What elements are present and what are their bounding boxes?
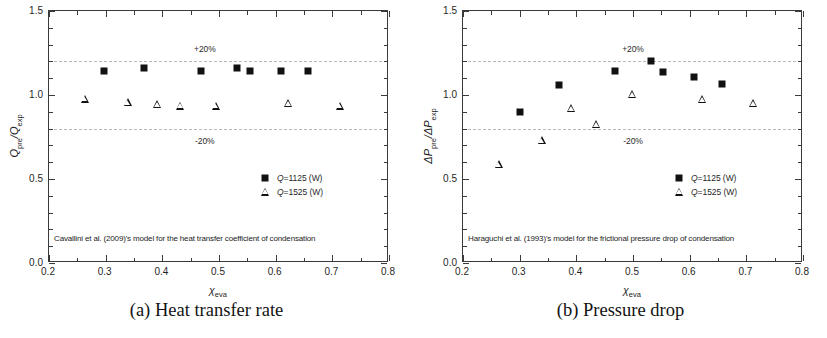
data-point-triangle <box>212 102 220 110</box>
y-tick <box>384 78 388 79</box>
x-axis-subscript: eva <box>629 290 641 299</box>
y-tick <box>384 45 388 46</box>
y-tick <box>463 263 469 264</box>
y-tick-label: 1.5 <box>430 5 457 16</box>
data-point-square <box>277 68 284 75</box>
y-axis-denominator-subscript: exp <box>15 114 24 126</box>
x-tick <box>134 11 135 15</box>
y-tick <box>795 179 801 180</box>
y-tick-label: 0.0 <box>16 257 43 268</box>
x-tick <box>389 11 390 17</box>
x-tick <box>746 255 747 261</box>
y-tick-label: 1.0 <box>16 89 43 100</box>
legend: Q=1125 (W)Q=1525 (W) <box>674 172 737 197</box>
x-tick <box>775 11 776 15</box>
x-axis-title: χeva <box>209 284 227 299</box>
y-tick <box>49 112 53 113</box>
x-tick <box>106 255 107 261</box>
x-tick <box>803 255 804 261</box>
data-point-square <box>246 67 253 74</box>
x-tick <box>219 255 220 261</box>
x-tick-label: 0.6 <box>682 266 696 277</box>
reference-line-plus20pct <box>49 61 387 62</box>
data-point-square <box>233 64 240 71</box>
plot-area-b: +20%-20% <box>462 10 802 262</box>
panel-caption: (a) Heat transfer rate <box>0 300 413 321</box>
y-tick <box>798 112 802 113</box>
y-axis-title: ΔPpre/ΔPexp <box>422 108 437 163</box>
data-point-triangle <box>153 100 161 108</box>
x-tick-label: 0.6 <box>268 266 282 277</box>
x-tick-label: 0.7 <box>324 266 338 277</box>
y-axis-denominator: ΔP <box>422 120 434 135</box>
y-tick <box>463 95 469 96</box>
x-tick <box>605 11 606 15</box>
y-tick <box>798 45 802 46</box>
x-tick <box>548 11 549 15</box>
x-axis-title: χeva <box>623 284 641 299</box>
x-tick <box>690 11 691 17</box>
data-point-triangle <box>336 102 344 110</box>
y-tick <box>795 263 801 264</box>
y-tick <box>49 95 55 96</box>
x-tick-label: 0.7 <box>738 266 752 277</box>
y-tick <box>381 179 387 180</box>
x-tick-label: 0.2 <box>455 266 469 277</box>
reference-label: -20% <box>623 136 642 146</box>
x-tick <box>49 255 50 261</box>
data-point-square <box>611 67 618 74</box>
x-tick <box>134 258 135 262</box>
x-tick-label: 0.3 <box>98 266 112 277</box>
y-tick <box>463 28 467 29</box>
y-axis-denominator: Q <box>8 127 20 136</box>
x-tick-label: 0.5 <box>211 266 225 277</box>
legend-label-value: =1125 (W) <box>284 173 323 183</box>
x-tick <box>276 255 277 261</box>
figure-root: +20%-20%0.20.30.40.50.60.70.80.00.51.01.… <box>0 0 827 338</box>
y-tick <box>384 213 388 214</box>
data-point-square <box>660 68 667 75</box>
legend-label: Q=1125 (W) <box>691 173 736 183</box>
legend-label-value: =1125 (W) <box>698 173 737 183</box>
y-tick <box>49 78 53 79</box>
reference-line-minus20pct <box>49 129 387 130</box>
x-tick <box>247 11 248 15</box>
y-axis-denominator-subscript: exp <box>429 108 438 120</box>
y-tick <box>798 162 802 163</box>
panel-caption: (b) Pressure drop <box>414 300 827 321</box>
data-point-square <box>555 81 562 88</box>
y-tick <box>381 11 387 12</box>
data-point-square <box>647 57 654 64</box>
legend-label-value: =1525 (W) <box>698 187 737 197</box>
x-tick <box>548 258 549 262</box>
data-point-triangle <box>284 99 292 107</box>
y-axis-title: Qpre/Qexp <box>8 114 23 157</box>
x-tick <box>661 11 662 15</box>
model-note: Haraguchi et al. (1993)'s model for the … <box>468 234 734 243</box>
data-point-square <box>516 108 523 115</box>
y-tick <box>49 11 55 12</box>
y-tick <box>384 229 388 230</box>
x-tick <box>775 258 776 262</box>
x-tick <box>191 11 192 15</box>
y-tick <box>463 162 467 163</box>
x-tick <box>633 11 634 17</box>
y-tick <box>798 129 802 130</box>
x-tick-label: 0.4 <box>154 266 168 277</box>
y-tick <box>798 61 802 62</box>
legend-item: Q=1125 (W) <box>260 172 323 183</box>
panel-a: +20%-20%0.20.30.40.50.60.70.80.00.51.01.… <box>0 0 413 338</box>
x-axis-subscript: eva <box>215 290 227 299</box>
legend-label: Q=1525 (W) <box>691 187 737 197</box>
data-point-square <box>100 67 107 74</box>
y-axis-numerator-subscript: pre <box>429 138 438 149</box>
x-tick-label: 0.2 <box>41 266 55 277</box>
y-tick <box>798 78 802 79</box>
data-point-triangle <box>698 95 706 103</box>
reference-line-minus20pct <box>463 129 801 130</box>
y-tick <box>49 213 53 214</box>
y-tick <box>463 11 469 12</box>
panel-b: +20%-20%0.20.30.40.50.60.70.80.00.51.01.… <box>414 0 827 338</box>
y-tick <box>49 263 55 264</box>
legend-marker-square-icon <box>260 173 270 183</box>
